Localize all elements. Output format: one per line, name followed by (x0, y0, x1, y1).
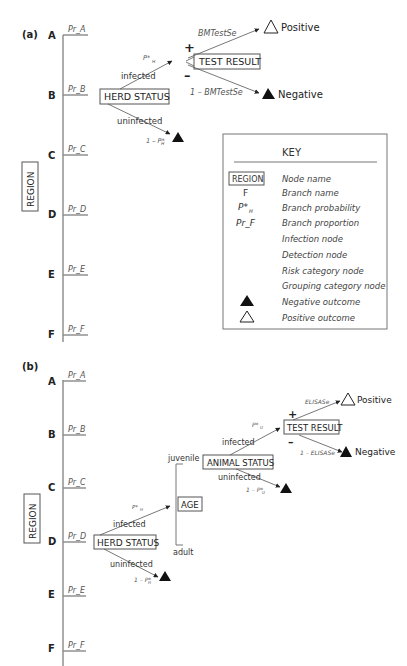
svg-text:Pr_D: Pr_D (68, 532, 86, 541)
svg-text:uninfected: uninfected (218, 473, 261, 482)
key-item-grouping-category-node: Grouping category node (282, 281, 385, 291)
herd-infected-prob: P* (143, 54, 151, 62)
svg-text:uninfected: uninfected (110, 560, 153, 569)
key-item-risk-category-node: Risk category node (282, 266, 364, 276)
svg-text:A: A (48, 376, 56, 387)
svg-text:REGION: REGION (232, 175, 263, 184)
svg-text:1 – ELISASe: 1 – ELISASe (300, 449, 335, 456)
region-branch-c: C Pr_C (48, 145, 88, 161)
svg-text:Pr_B: Pr_B (68, 425, 86, 434)
region-branch-f: F Pr_F (48, 325, 88, 340)
svg-text:A: A (48, 30, 56, 41)
test-positive-prob: BMTestSe (198, 29, 237, 38)
key-title: KEY (282, 147, 302, 158)
negative-outcome-icon (172, 132, 184, 142)
age-node: AGE (178, 497, 202, 511)
svg-text:Pr_C: Pr_C (68, 145, 86, 154)
svg-text:E: E (48, 269, 55, 280)
svg-text:P*: P* (252, 421, 259, 428)
minus-sign: – (184, 68, 191, 83)
svg-text:H: H (249, 208, 253, 214)
svg-text:AGE: AGE (181, 500, 199, 510)
svg-text:Pr_E: Pr_E (68, 586, 86, 595)
svg-text:Pr_E: Pr_E (68, 265, 86, 274)
svg-text:U: U (260, 425, 263, 430)
region-branch-e: E Pr_E (48, 586, 86, 600)
svg-text:TEST RESULT: TEST RESULT (286, 423, 343, 433)
region-branch-f: F Pr_F (48, 641, 86, 654)
region-branch-a: A Pr_A (48, 371, 86, 387)
svg-text:Negative outcome: Negative outcome (282, 297, 360, 307)
svg-text:Pr_C: Pr_C (68, 478, 86, 487)
svg-text:Risk category node: Risk category node (282, 266, 364, 276)
svg-text:H: H (152, 59, 156, 64)
svg-text:Negative: Negative (355, 447, 396, 457)
svg-text:1 – P*: 1 – P* (246, 486, 263, 493)
svg-text:D: D (48, 536, 56, 547)
svg-text:F: F (48, 643, 55, 654)
svg-text:Branch name: Branch name (282, 188, 339, 198)
animal-status-node: ANIMAL STATUS (203, 455, 274, 469)
scenario-tree-diagram: (a) REGION A Pr_A B Pr_B C Pr_C D Pr_D (0, 0, 407, 666)
key-item-detection-node: Detection node (282, 250, 347, 260)
test-negative-prob: 1 – BMTestSe (190, 88, 243, 97)
herd-status-node-a: HERD STATUS (100, 89, 170, 104)
svg-text:Pr_F: Pr_F (68, 325, 85, 334)
negative-outcome-icon (262, 88, 275, 99)
svg-text:Pr_A: Pr_A (68, 25, 86, 34)
svg-text:Pr_F: Pr_F (236, 218, 256, 228)
panel-a-label: (a) (22, 29, 38, 40)
svg-text:TEST RESULT: TEST RESULT (198, 56, 261, 67)
test-result-node-b: TEST RESULT (284, 420, 343, 434)
svg-text:Branch probability: Branch probability (282, 203, 361, 213)
svg-text:–: – (288, 436, 294, 449)
svg-text:HERD STATUS: HERD STATUS (97, 538, 160, 548)
svg-text:REGION: REGION (28, 504, 38, 539)
svg-text:E: E (48, 589, 55, 600)
region-branch-e: E Pr_E (48, 265, 88, 280)
plus-sign: + (184, 40, 195, 55)
svg-text:HERD STATUS: HERD STATUS (104, 91, 170, 102)
region-branch-b: B Pr_B (48, 85, 88, 101)
svg-text:Infection node: Infection node (282, 234, 343, 244)
region-node-b: REGION (24, 494, 40, 543)
svg-text:C: C (48, 150, 55, 161)
svg-text:P*: P* (238, 202, 248, 212)
region-branch-a: A Pr_A (48, 25, 88, 41)
svg-text:Positive outcome: Positive outcome (282, 313, 355, 323)
panel-b-label: (b) (22, 361, 38, 372)
region-branch-c: C Pr_C (48, 478, 86, 493)
svg-text:Positive: Positive (357, 395, 392, 405)
svg-text:Pr_A: Pr_A (68, 371, 86, 380)
svg-text:Detection node: Detection node (282, 250, 347, 260)
key-legend: KEY REGION Node name F Branch name P* H … (223, 134, 387, 329)
svg-text:Pr_D: Pr_D (68, 205, 86, 214)
positive-outcome-icon (264, 20, 278, 33)
herd-status-node-b: HERD STATUS (94, 535, 160, 549)
positive-outcome-icon (341, 393, 355, 405)
herd-uninfected-label: uninfected (117, 116, 162, 126)
test-result-node-a: TEST RESULT (194, 54, 261, 69)
negative-outcome-icon (159, 571, 171, 581)
svg-text:H: H (148, 580, 151, 585)
region-branch-d: D Pr_D (48, 532, 86, 547)
svg-text:C: C (48, 482, 55, 493)
age-adult-label: adult (173, 548, 193, 557)
svg-text:F: F (243, 188, 248, 198)
key-item-infection-node: Infection node (282, 234, 343, 244)
region-branch-d: D Pr_D (48, 205, 88, 220)
herd-infected-label: infected (121, 71, 156, 81)
svg-text:U: U (262, 490, 265, 495)
svg-text:ANIMAL STATUS: ANIMAL STATUS (207, 458, 274, 468)
svg-text:Pr_F: Pr_F (68, 641, 85, 650)
svg-text:infected: infected (222, 438, 255, 447)
svg-text:F: F (48, 329, 55, 340)
negative-outcome-icon (280, 483, 292, 493)
svg-text:Pr_B: Pr_B (68, 85, 86, 94)
age-juvenile-label: juvenile (167, 454, 199, 463)
svg-text:D: D (48, 209, 56, 220)
positive-outcome-label: Positive (281, 22, 320, 33)
svg-text:ELISASe: ELISASe (305, 398, 330, 405)
svg-text:Branch proportion: Branch proportion (282, 218, 359, 228)
region-node-a: REGION (22, 162, 38, 211)
